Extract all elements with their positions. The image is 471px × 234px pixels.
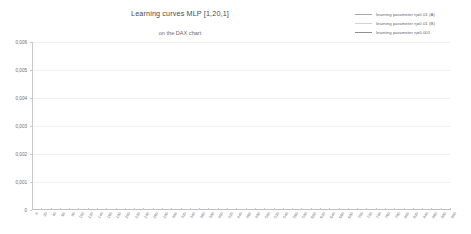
legend-item[interactable]: learning parameter η=0.001 [355, 29, 469, 36]
x-axis-tick-label: 720 [366, 211, 374, 219]
x-axis-tick [41, 208, 42, 210]
x-axis-tick-label: 500 [263, 211, 271, 219]
x-axis-tick [208, 208, 209, 210]
x-axis-tick [181, 208, 182, 210]
x-axis-tick-label: 620 [319, 211, 327, 219]
x-axis-tick-label: 700 [356, 211, 364, 219]
y-axis-line [32, 42, 33, 210]
x-axis-tick-label: 400 [217, 211, 225, 219]
x-axis-tick-label: 520 [273, 211, 281, 219]
gridline [32, 154, 450, 155]
legend-swatch-icon [355, 14, 372, 15]
x-axis-tick [106, 208, 107, 210]
x-axis-tick [153, 208, 154, 210]
x-axis-tick [51, 208, 52, 210]
x-axis-tick-label: 180 [115, 211, 123, 219]
x-axis-tick-label: 600 [310, 211, 318, 219]
x-axis-tick [274, 208, 275, 210]
learning-curves-chart: Learning curves MLP [1,20,1] on the DAX … [0, 0, 471, 234]
x-axis-tick-label: 460 [245, 211, 253, 219]
x-axis-tick [311, 208, 312, 210]
y-axis-tick [30, 126, 32, 127]
x-axis-tick-label: 540 [282, 211, 290, 219]
x-axis-tick [97, 208, 98, 210]
x-axis-tick [143, 208, 144, 210]
x-axis-tick [227, 208, 228, 210]
x-axis-tick-label: 200 [124, 211, 132, 219]
x-axis-tick-label: 560 [291, 211, 299, 219]
chart-legend: learning parameter η=0.01 (A)learning pa… [355, 11, 469, 37]
x-axis-tick-label: 820 [412, 211, 420, 219]
x-axis-tick [301, 208, 302, 210]
x-axis-tick-label: 660 [338, 211, 346, 219]
x-axis-tick-label: 40 [51, 211, 58, 217]
x-axis-tick [116, 208, 117, 210]
x-axis-tick [320, 208, 321, 210]
x-axis-tick [218, 208, 219, 210]
x-axis-tick [422, 208, 423, 210]
x-axis-tick-label: 20 [42, 211, 49, 217]
legend-label: learning parameter η=0.01 (A) [376, 12, 435, 17]
x-axis-tick [69, 208, 70, 210]
gridline [32, 182, 450, 183]
x-axis-tick [246, 208, 247, 210]
legend-label: learning parameter η=0.001 [376, 30, 430, 35]
x-axis-tick [292, 208, 293, 210]
x-axis-tick-label: 60 [60, 211, 67, 217]
x-axis-tick-label: 880 [440, 211, 448, 219]
x-axis-tick-label: 480 [254, 211, 262, 219]
x-axis-tick-label: 220 [133, 211, 141, 219]
y-axis-tick-label: 0,006 [0, 40, 27, 45]
x-axis-tick [441, 208, 442, 210]
legend-swatch-icon [355, 32, 372, 33]
x-axis-tick [78, 208, 79, 210]
legend-swatch-icon [355, 23, 372, 24]
x-axis-tick-label: 80 [69, 211, 76, 217]
x-axis-tick-label: 640 [328, 211, 336, 219]
x-axis-tick-label: 140 [96, 211, 104, 219]
y-axis-tick [30, 154, 32, 155]
legend-item[interactable]: learning parameter η=0.01 (B) [355, 20, 469, 27]
x-axis-tick-label: 260 [152, 211, 160, 219]
x-axis-tick [376, 208, 377, 210]
x-axis-tick-label: 760 [384, 211, 392, 219]
gridline [32, 70, 450, 71]
x-axis-tick [394, 208, 395, 210]
legend-label: learning parameter η=0.01 (B) [376, 21, 435, 26]
x-axis-tick [329, 208, 330, 210]
x-axis-tick-label: 840 [421, 211, 429, 219]
x-axis-tick-label: 120 [87, 211, 95, 219]
x-axis-tick-label: 380 [208, 211, 216, 219]
title-block: Learning curves MLP [1,20,1] on the DAX … [0, 9, 360, 37]
gridline [32, 98, 450, 99]
y-axis-tick-label: 0,001 [0, 180, 27, 185]
x-axis-tick [199, 208, 200, 210]
plot-area: 0,0060,0050,0040,0030,0020,0010 [32, 42, 450, 210]
x-axis-tick [190, 208, 191, 210]
x-axis-tick [283, 208, 284, 210]
x-axis-tick [264, 208, 265, 210]
y-axis-tick-label: 0,002 [0, 152, 27, 157]
x-axis-tick [162, 208, 163, 210]
gridline [32, 42, 450, 43]
x-axis-tick [357, 208, 358, 210]
y-axis-tick-label: 0 [0, 208, 27, 213]
y-axis-tick-label: 0,005 [0, 68, 27, 73]
legend-item[interactable]: learning parameter η=0.01 (A) [355, 11, 469, 18]
x-axis-tick-label: 320 [180, 211, 188, 219]
x-axis-tick [88, 208, 89, 210]
x-axis-tick [134, 208, 135, 210]
x-axis-tick-label: 580 [301, 211, 309, 219]
chart-title: Learning curves MLP [1,20,1] [0, 9, 360, 19]
x-axis-tick-label: 440 [236, 211, 244, 219]
x-axis-tick [431, 208, 432, 210]
x-axis-tick [348, 208, 349, 210]
x-axis-tick-label: 680 [347, 211, 355, 219]
y-axis-tick-label: 0,003 [0, 124, 27, 129]
chart-subtitle: on the DAX chart [0, 29, 360, 37]
x-axis-tick [60, 208, 61, 210]
x-axis-tick-label: 0 [33, 211, 38, 215]
x-axis-tick-label: 800 [403, 211, 411, 219]
x-axis-tick-label: 300 [170, 211, 178, 219]
x-axis-tick-label: 360 [198, 211, 206, 219]
